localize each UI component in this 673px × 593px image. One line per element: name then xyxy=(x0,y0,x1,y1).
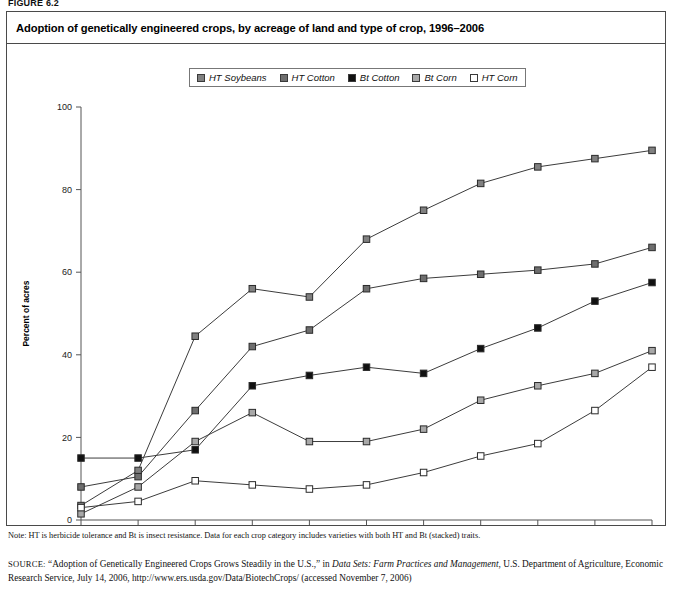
series-data-point xyxy=(649,347,656,354)
series-data-point xyxy=(363,438,370,445)
series-data-point xyxy=(592,298,599,305)
series-data-point xyxy=(477,345,484,352)
chart-series xyxy=(78,364,656,511)
y-tick-label: 60 xyxy=(62,267,72,277)
series-data-point xyxy=(535,164,542,171)
y-tick-label: 0 xyxy=(67,515,72,525)
series-data-point xyxy=(192,407,199,414)
chart-plot-area: 0204060801001996199719981999200020012002… xyxy=(7,12,667,526)
source-text-italic: Data Sets: Farm Practices and Management xyxy=(332,559,499,569)
series-data-point xyxy=(535,383,542,390)
chart-note: Note: HT is herbicide tolerance and Bt i… xyxy=(8,531,668,540)
series-data-point xyxy=(249,285,256,292)
series-data-point xyxy=(649,147,656,154)
series-data-point xyxy=(420,207,427,214)
series-data-point xyxy=(306,372,313,379)
series-data-point xyxy=(306,327,313,334)
series-data-point xyxy=(78,511,85,518)
figure-container: FIGURE 6.2 Adoption of genetically engin… xyxy=(0,0,673,593)
y-tick-label: 20 xyxy=(62,433,72,443)
series-data-point xyxy=(363,482,370,489)
series-data-point xyxy=(192,447,199,454)
figure-label: FIGURE 6.2 xyxy=(8,0,59,8)
y-tick-label: 40 xyxy=(62,350,72,360)
y-tick-label: 100 xyxy=(57,102,72,112)
series-data-point xyxy=(192,333,199,340)
series-data-point xyxy=(135,473,142,480)
series-data-point xyxy=(420,426,427,433)
series-data-point xyxy=(649,244,656,251)
series-data-point xyxy=(192,478,199,485)
figure-box: Adoption of genetically engineered crops… xyxy=(6,11,666,526)
y-axis-title: Percent of acres xyxy=(21,280,31,346)
series-data-point xyxy=(135,498,142,505)
series-line xyxy=(81,150,652,505)
series-data-point xyxy=(249,383,256,390)
series-data-point xyxy=(477,271,484,278)
series-data-point xyxy=(306,294,313,301)
source-label: SOURCE: xyxy=(8,559,46,569)
series-data-point xyxy=(135,467,142,474)
series-data-point xyxy=(363,364,370,371)
y-tick-label: 80 xyxy=(62,185,72,195)
series-data-point xyxy=(420,275,427,282)
series-data-point xyxy=(535,325,542,332)
series-data-point xyxy=(420,370,427,377)
series-data-point xyxy=(78,455,85,462)
series-data-point xyxy=(135,455,142,462)
series-data-point xyxy=(592,370,599,377)
series-data-point xyxy=(306,486,313,493)
chart-series xyxy=(78,279,656,461)
series-data-point xyxy=(363,236,370,243)
series-data-point xyxy=(363,285,370,292)
chart-source: SOURCE: “Adoption of Genetically Enginee… xyxy=(8,558,666,585)
series-data-point xyxy=(249,409,256,416)
series-data-point xyxy=(535,267,542,274)
series-data-point xyxy=(535,440,542,447)
series-data-point xyxy=(249,482,256,489)
series-data-point xyxy=(135,484,142,491)
series-data-point xyxy=(592,407,599,414)
series-data-point xyxy=(477,453,484,460)
series-data-point xyxy=(78,504,85,511)
series-data-point xyxy=(78,484,85,491)
series-data-point xyxy=(592,155,599,162)
source-text-part1: “Adoption of Genetically Engineered Crop… xyxy=(48,559,332,569)
series-data-point xyxy=(649,279,656,286)
series-data-point xyxy=(249,343,256,350)
series-data-point xyxy=(477,180,484,187)
series-data-point xyxy=(192,438,199,445)
series-data-point xyxy=(306,438,313,445)
series-data-point xyxy=(592,261,599,268)
series-data-point xyxy=(649,364,656,371)
series-data-point xyxy=(420,469,427,476)
series-data-point xyxy=(477,397,484,404)
series-line xyxy=(81,351,652,514)
